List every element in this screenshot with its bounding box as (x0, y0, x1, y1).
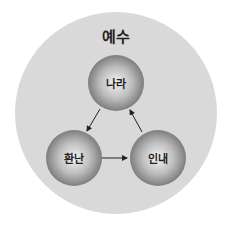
node-innae: 인내 (130, 130, 186, 186)
node-nara: 나라 (88, 55, 144, 111)
node-hwannan: 환난 (46, 130, 102, 186)
arrow-nara-hwannan (87, 109, 100, 131)
node-label: 인내 (148, 150, 168, 166)
node-label: 환난 (64, 150, 84, 166)
arrows (0, 0, 231, 227)
node-label: 나라 (106, 75, 126, 91)
arrow-innae-nara (130, 110, 142, 132)
